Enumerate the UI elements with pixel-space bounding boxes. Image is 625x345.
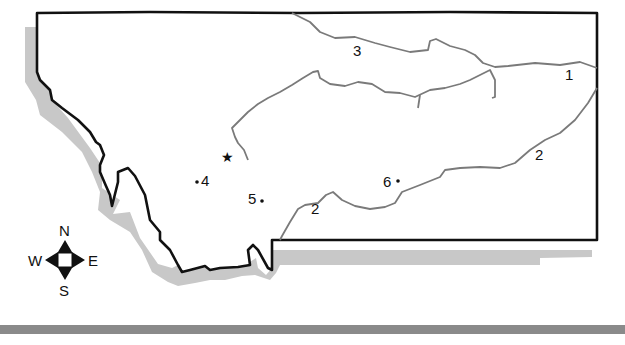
compass-center [58,253,72,267]
compass-south: S [59,282,69,299]
label-5: 5 [248,190,256,207]
state-border [37,12,597,272]
label-4: 4 [201,172,209,189]
label-6: 6 [383,173,391,190]
label-2-east: 2 [535,146,543,163]
point-6 [396,179,400,183]
label-2-south: 2 [311,200,319,217]
point-5 [260,199,264,203]
montana-map: ★ 1 2 3 4 5 6 2 N S E W [0,0,625,345]
compass-north: N [59,222,70,239]
compass-east: E [88,252,98,269]
label-3: 3 [353,42,361,59]
point-4 [195,180,199,184]
compass-rose: N S E W [28,222,98,299]
compass-west: W [28,252,43,269]
label-1: 1 [565,66,573,83]
capital-star-icon: ★ [221,149,234,165]
